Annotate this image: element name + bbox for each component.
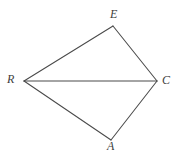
vertex-label-R: R bbox=[7, 73, 14, 85]
edge-R-E bbox=[24, 26, 113, 81]
edge-R-A bbox=[24, 81, 111, 140]
edge-E-C bbox=[113, 26, 157, 81]
geometry-figure: E R C A bbox=[0, 0, 178, 151]
edge-A-C bbox=[111, 81, 157, 140]
figure-canvas bbox=[0, 0, 178, 151]
vertex-label-A: A bbox=[107, 140, 114, 151]
vertex-label-E: E bbox=[110, 8, 117, 20]
vertex-label-C: C bbox=[162, 74, 170, 86]
